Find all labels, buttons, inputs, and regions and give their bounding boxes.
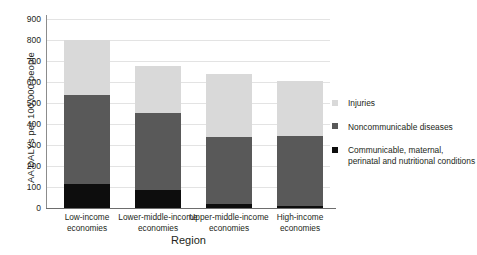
x-tick-line-2: economies — [257, 223, 343, 234]
bar-segment-communicable-maternal-perinatal-nutritional[interactable] — [135, 190, 181, 208]
x-tick-high-income: High-income economies — [257, 212, 343, 233]
y-tick-600: 600 — [13, 77, 41, 87]
bar-segment-injuries[interactable] — [64, 40, 110, 95]
bar-segment-noncommunicable-diseases[interactable] — [277, 136, 323, 206]
bar-segment-injuries[interactable] — [135, 66, 181, 113]
ncd-swatch-icon — [332, 123, 338, 129]
y-tick-300: 300 — [13, 140, 41, 150]
stacked-bar-chart: AA DALYs per 100,000 people 900 800 700 … — [0, 0, 477, 255]
legend-label-communicable-maternal-perinatal-nutritional: Communicable, maternal, perinatal and nu… — [348, 145, 477, 166]
legend-label-line-2: perinatal and nutritional conditions — [348, 156, 477, 167]
chart-legend: Injuries Noncommunicable diseases Commun… — [332, 98, 477, 179]
y-tick-100: 100 — [13, 182, 41, 192]
y-tick-0: 0 — [13, 203, 41, 213]
legend-label-injuries: Injuries — [348, 98, 477, 109]
bars-container — [47, 19, 330, 208]
y-tick-900: 900 — [13, 14, 41, 24]
bar-segment-noncommunicable-diseases[interactable] — [64, 95, 110, 184]
y-tick-800: 800 — [13, 35, 41, 45]
legend-label-line-1: Communicable, maternal, — [348, 145, 477, 156]
y-axis-tick-labels: 900 800 700 600 500 400 300 200 100 0 — [11, 19, 41, 208]
bar-segment-communicable-maternal-perinatal-nutritional[interactable] — [206, 204, 252, 208]
bar-segment-communicable-maternal-perinatal-nutritional[interactable] — [64, 184, 110, 208]
y-tick-200: 200 — [13, 161, 41, 171]
legend-item-injuries[interactable]: Injuries — [332, 98, 477, 109]
x-axis-title: Region — [47, 234, 330, 246]
legend-item-noncommunicable-diseases[interactable]: Noncommunicable diseases — [332, 122, 477, 133]
legend-label-line-1: Noncommunicable diseases — [348, 122, 477, 133]
injuries-swatch-icon — [332, 100, 338, 106]
y-tick-500: 500 — [13, 98, 41, 108]
bar-segment-noncommunicable-diseases[interactable] — [135, 113, 181, 190]
y-tick-400: 400 — [13, 119, 41, 129]
bar-segment-injuries[interactable] — [277, 81, 323, 136]
bar-segment-communicable-maternal-perinatal-nutritional[interactable] — [277, 206, 323, 208]
legend-label-line-1: Injuries — [348, 98, 477, 109]
legend-label-noncommunicable-diseases: Noncommunicable diseases — [348, 122, 477, 133]
plot-area — [47, 19, 330, 208]
cmpn-swatch-icon — [332, 147, 338, 153]
bar-segment-injuries[interactable] — [206, 74, 252, 137]
bar-segment-noncommunicable-diseases[interactable] — [206, 137, 252, 204]
y-tick-700: 700 — [13, 56, 41, 66]
x-tick-line-1: High-income — [257, 212, 343, 223]
legend-item-communicable-maternal-perinatal-nutritional[interactable]: Communicable, maternal, perinatal and nu… — [332, 145, 477, 166]
